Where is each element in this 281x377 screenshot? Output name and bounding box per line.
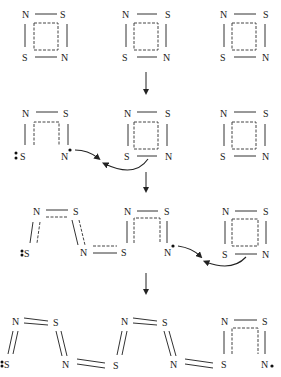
atom-s: S: [221, 359, 227, 370]
atom-s: S: [122, 52, 128, 63]
atom-n: N: [262, 151, 269, 162]
lone-pair-dot: [15, 157, 18, 160]
atom-n: N: [163, 52, 170, 63]
atom-n: N: [22, 9, 29, 20]
atom-n: N: [61, 151, 68, 162]
atom-n: N: [22, 108, 29, 119]
atom-n: N: [170, 359, 177, 370]
lone-pair-dot: [21, 254, 24, 257]
curly-arrow-attack: [75, 150, 98, 158]
atom-n: N: [121, 316, 128, 327]
lone-pair-dot: [21, 250, 24, 253]
diagram-canvas: N S S N N S S N N S S N: [0, 0, 281, 377]
curly-arrow-attack: [178, 246, 200, 256]
radical-dot: [270, 364, 273, 367]
atom-s: S: [113, 360, 119, 371]
atom-s: S: [124, 151, 130, 162]
atom-s: S: [262, 316, 268, 327]
stage-2: N S S N N S S N N S S: [15, 108, 270, 170]
atom-n: N: [262, 249, 269, 260]
atom-n: N: [220, 108, 227, 119]
atom-s: S: [263, 108, 269, 119]
atom-n: N: [124, 206, 131, 217]
atom-n: N: [261, 359, 268, 370]
ring-1c: N S S N: [220, 9, 269, 63]
atom-n: N: [164, 247, 171, 258]
atom-s: S: [53, 317, 59, 328]
atom-n: N: [122, 9, 129, 20]
atom-s: S: [24, 248, 30, 259]
atom-s: S: [22, 52, 28, 63]
atom-s: S: [20, 151, 26, 162]
ring-2b: N S S N: [124, 108, 172, 162]
atom-s: S: [263, 9, 269, 20]
atom-n: N: [262, 52, 269, 63]
atom-s: S: [165, 108, 171, 119]
atom-n: N: [124, 108, 131, 119]
s2n2-polymerization-diagram: N S S N N S S N N S S N: [0, 0, 281, 377]
ring-3c: N S S N: [222, 206, 269, 260]
atom-s: S: [73, 206, 79, 217]
atom-s: S: [121, 247, 127, 258]
atom-n: N: [222, 206, 229, 217]
atom-n: N: [33, 206, 40, 217]
lone-pair-dot: [15, 152, 18, 155]
atom-s: S: [222, 249, 228, 260]
ring-1a: N S S N: [22, 9, 68, 63]
atom-n: N: [12, 316, 19, 327]
atom-n: N: [80, 247, 87, 258]
atom-s: S: [263, 206, 269, 217]
atom-n: N: [62, 359, 69, 370]
atom-n: N: [221, 316, 228, 327]
ring-2c: N S S N: [220, 108, 269, 162]
atom-n: N: [61, 52, 68, 63]
atom-s: S: [164, 206, 170, 217]
atom-s: S: [162, 317, 168, 328]
atom-s: S: [220, 151, 226, 162]
atom-s: S: [4, 359, 10, 370]
atom-s: S: [63, 108, 69, 119]
open-unit-2a: N S S N: [15, 108, 72, 162]
ring-1b: N S S N: [122, 9, 171, 63]
atom-s: S: [165, 9, 171, 20]
radical-dot: [171, 244, 174, 247]
radical-dot: [68, 148, 71, 151]
atom-s: S: [60, 9, 66, 20]
atom-s: S: [220, 52, 226, 63]
lone-pair-dot: [1, 361, 4, 364]
stage-1: N S S N N S S N N S S N: [22, 9, 269, 63]
lone-pair-dot: [1, 365, 4, 368]
atom-n: N: [165, 151, 172, 162]
atom-n: N: [220, 9, 227, 20]
stage-3: N S S N S N S N N S S N: [21, 206, 270, 266]
stage-4: N S S N S N S N S N S N: [1, 316, 274, 371]
